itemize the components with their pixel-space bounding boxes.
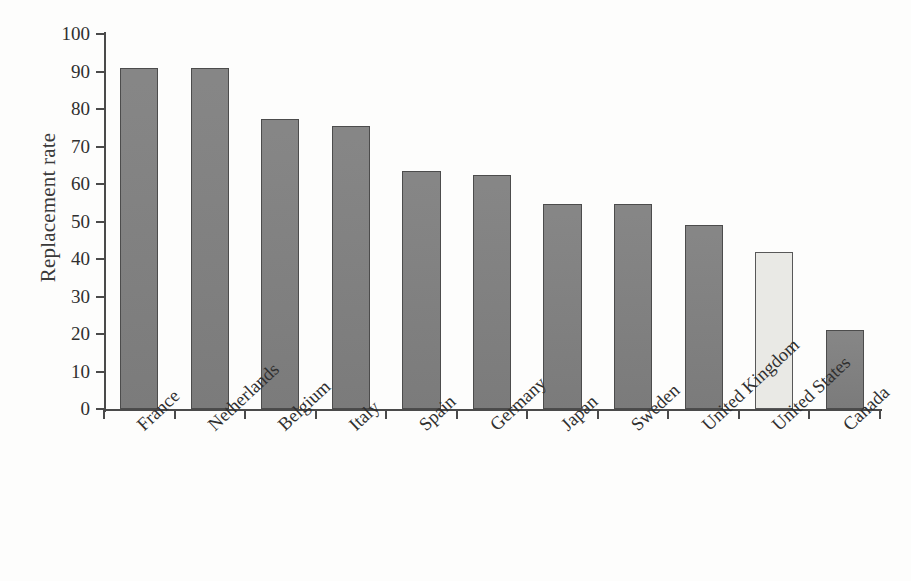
x-tick-mark xyxy=(315,410,317,419)
bar[interactable] xyxy=(402,171,440,409)
y-tick-label: 90 xyxy=(30,61,90,83)
y-tick-mark xyxy=(96,296,105,298)
x-tick-mark xyxy=(667,410,669,419)
bar[interactable] xyxy=(614,204,652,410)
bar[interactable] xyxy=(543,204,581,409)
y-tick-label: 20 xyxy=(30,323,90,345)
y-tick-label: 0 xyxy=(30,398,90,420)
y-tick-mark xyxy=(96,71,105,73)
x-tick-mark xyxy=(174,410,176,419)
y-tick-mark xyxy=(96,258,105,260)
x-tick-mark xyxy=(808,410,810,419)
y-tick-label: 50 xyxy=(30,211,90,233)
y-tick-mark xyxy=(96,183,105,185)
x-tick-mark xyxy=(385,410,387,419)
x-tick-mark xyxy=(879,410,881,419)
x-tick-mark xyxy=(738,410,740,419)
y-tick-label: 60 xyxy=(30,173,90,195)
bar[interactable] xyxy=(685,225,723,409)
bar[interactable] xyxy=(473,175,511,409)
y-tick-label: 100 xyxy=(30,23,90,45)
x-tick-mark xyxy=(597,410,599,419)
bar[interactable] xyxy=(120,68,158,409)
y-tick-label: 70 xyxy=(30,136,90,158)
y-tick-label: 30 xyxy=(30,286,90,308)
x-tick-mark xyxy=(244,410,246,419)
y-tick-mark xyxy=(96,333,105,335)
y-tick-mark xyxy=(96,33,105,35)
y-tick-label: 40 xyxy=(30,248,90,270)
x-tick-mark xyxy=(526,410,528,419)
bar[interactable] xyxy=(191,68,229,409)
x-tick-mark xyxy=(103,410,105,419)
bar-chart: Replacement rate 0102030405060708090100 … xyxy=(0,0,911,581)
y-tick-label: 10 xyxy=(30,361,90,383)
y-tick-mark xyxy=(96,371,105,373)
y-tick-mark xyxy=(96,108,105,110)
x-tick-mark xyxy=(456,410,458,419)
y-tick-mark xyxy=(96,221,105,223)
bar[interactable] xyxy=(332,126,370,409)
y-tick-mark xyxy=(96,146,105,148)
y-tick-label: 80 xyxy=(30,98,90,120)
